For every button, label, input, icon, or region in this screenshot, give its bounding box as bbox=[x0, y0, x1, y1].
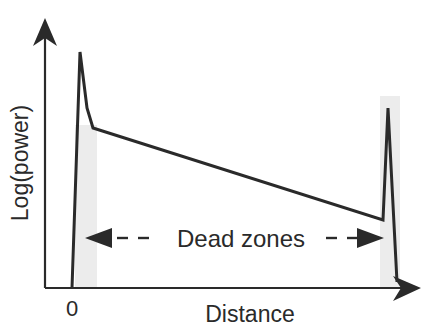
left-dead-zone-shading bbox=[75, 125, 97, 288]
dead-zones-label: Dead zones bbox=[177, 225, 305, 252]
signal-trace bbox=[72, 52, 397, 288]
y-axis-label: Log(power) bbox=[7, 105, 33, 221]
dead-zones-annotation: Dead zones bbox=[85, 225, 384, 252]
y-axis bbox=[33, 18, 57, 288]
x-axis-label: Distance bbox=[205, 301, 294, 327]
x-origin-label: 0 bbox=[66, 296, 78, 321]
right-arrowhead-icon bbox=[357, 228, 384, 248]
otdr-diagram: Dead zones Log(power) 0 Distance bbox=[0, 0, 430, 327]
x-axis bbox=[45, 276, 421, 301]
